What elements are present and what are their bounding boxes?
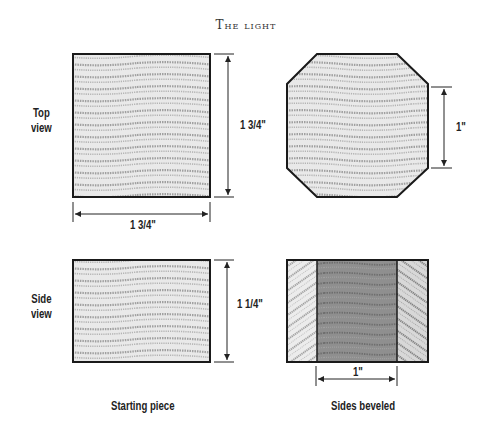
side-view-label: Side view [31,292,52,322]
diagram-canvas [0,0,492,435]
side-height-dimension [214,260,234,362]
top-width-label: 1 3/4" [130,218,156,232]
side-height-label: 1 1/4" [237,297,263,311]
top-view-octagon [287,54,428,197]
top-height-dimension [214,54,234,197]
top-view-label: Top view [31,106,52,136]
octagon-side-dimension [431,87,452,168]
side-view-rect [73,260,210,362]
beveled-width-label: 1" [353,365,363,379]
top-view-square [73,54,210,197]
starting-piece-caption: Starting piece [111,399,174,413]
octagon-side-label: 1" [456,120,466,134]
sides-beveled-caption: Sides beveled [331,399,395,413]
side-view-beveled [287,260,428,362]
top-height-label: 1 3/4" [240,118,266,132]
